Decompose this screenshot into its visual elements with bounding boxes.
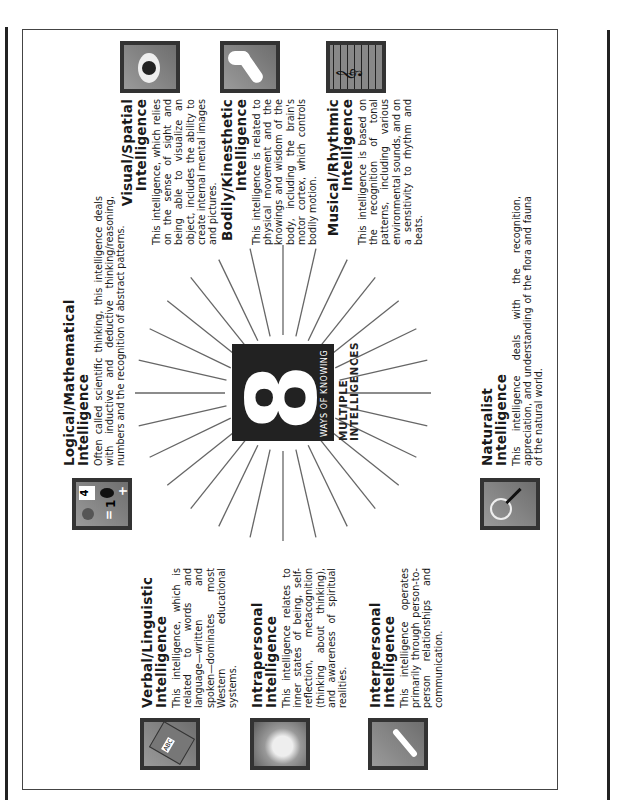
title-line1: Bodily/Kinesthetic bbox=[220, 99, 234, 245]
music-staff-icon: 𝄞 bbox=[326, 41, 386, 93]
multiple-intelligences-heading: MULTIPLE INTELLIGENCES bbox=[338, 342, 360, 441]
title-line2: Intelligence bbox=[154, 568, 168, 708]
card-title: Logical/Mathematical Intelligence bbox=[62, 196, 90, 466]
title-line2: Intelligence bbox=[264, 568, 278, 708]
card-title: Verbal/Linguistic Intelligence bbox=[140, 568, 168, 708]
card-description: This intelligence is based on the recogn… bbox=[357, 99, 424, 245]
heading-line2: INTELLIGENCES bbox=[349, 342, 360, 441]
title-line1: Naturalist bbox=[480, 196, 494, 466]
magnifier-leaf-icon bbox=[480, 478, 540, 530]
title-line1: Musical/Rhythmic bbox=[326, 99, 340, 245]
card-description: This intelligence deals with the recogni… bbox=[511, 196, 545, 466]
title-line2: Intelligence bbox=[234, 99, 248, 245]
card-description: This intelligence is related to physical… bbox=[251, 99, 318, 245]
card-title: Visual/Spatial Intelligence bbox=[120, 99, 148, 245]
numeral-eight: 8 bbox=[240, 367, 326, 431]
handshake-icon bbox=[368, 718, 428, 770]
title-line2: Intelligence bbox=[340, 99, 354, 245]
title-line2: Intelligence bbox=[134, 99, 148, 245]
title-line2: Intelligence bbox=[494, 196, 508, 466]
title-line1: Logical/Mathematical bbox=[62, 196, 76, 466]
title-line2: Intelligence bbox=[76, 196, 90, 466]
card-title: Naturalist Intelligence bbox=[480, 196, 508, 466]
eye-icon bbox=[120, 41, 180, 93]
center-title-box: 8 WAYS OF KNOWING bbox=[232, 344, 334, 441]
card-title: Intrapersonal Intelligence bbox=[250, 568, 278, 708]
card-description: This intelligence, which relies on the s… bbox=[151, 99, 218, 245]
glowing-head-icon bbox=[250, 718, 310, 770]
card-description: This intelligence, which is related to w… bbox=[171, 568, 238, 708]
title-line1: Visual/Spatial bbox=[120, 99, 134, 245]
card-title: Musical/Rhythmic Intelligence bbox=[326, 99, 354, 245]
title-line1: Verbal/Linguistic bbox=[140, 568, 154, 708]
title-line2: Intelligence bbox=[382, 568, 396, 708]
card-title: Interpersonal Intelligence bbox=[368, 568, 396, 708]
card-description: This intelligence operates primarily thr… bbox=[399, 568, 444, 708]
ways-of-knowing-label: WAYS OF KNOWING bbox=[320, 350, 329, 437]
math-symbols-icon: 4 = 1 + bbox=[72, 478, 132, 530]
card-description: This intelligence relates to inner state… bbox=[281, 568, 348, 708]
title-line1: Intrapersonal bbox=[250, 568, 264, 708]
rotated-page: 8 WAYS OF KNOWING MULTIPLE INTELLIGENCES… bbox=[0, 0, 617, 800]
flexed-arm-icon bbox=[220, 41, 280, 93]
title-line1: Interpersonal bbox=[368, 568, 382, 708]
abc-book-icon: ABC bbox=[140, 718, 200, 770]
card-title: Bodily/Kinesthetic Intelligence bbox=[220, 99, 248, 245]
